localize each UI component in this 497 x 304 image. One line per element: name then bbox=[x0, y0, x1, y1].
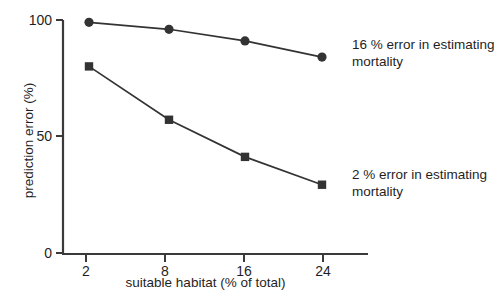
data-point-circle bbox=[164, 25, 173, 34]
data-point-square bbox=[165, 116, 173, 124]
annotation-lower-line2: mortality bbox=[352, 183, 497, 200]
y-axis-title: prediction error (%) bbox=[21, 56, 36, 226]
data-point-square bbox=[241, 153, 249, 161]
data-point-circle bbox=[317, 53, 326, 62]
data-point-circle bbox=[240, 36, 249, 45]
annotation-upper-line2: mortality bbox=[352, 53, 497, 70]
series-2-percent-error bbox=[85, 62, 326, 189]
series-16-percent-error bbox=[84, 18, 326, 62]
annotation-upper-series: 16 % error in estimating mortality bbox=[352, 36, 497, 70]
series-line bbox=[89, 22, 322, 57]
y-axis-tick-label-100: 100 bbox=[4, 12, 52, 28]
y-axis-tick-label-0: 0 bbox=[4, 245, 52, 261]
x-axis-title: suitable habitat (% of total) bbox=[63, 275, 348, 290]
data-point-square bbox=[85, 62, 93, 70]
series-line bbox=[89, 66, 322, 184]
annotation-lower-series: 2 % error in estimating mortality bbox=[352, 166, 497, 200]
data-point-square bbox=[318, 181, 326, 189]
annotation-lower-line1: 2 % error in estimating bbox=[352, 166, 497, 183]
annotation-upper-line1: 16 % error in estimating bbox=[352, 36, 497, 53]
data-point-circle bbox=[84, 18, 93, 27]
